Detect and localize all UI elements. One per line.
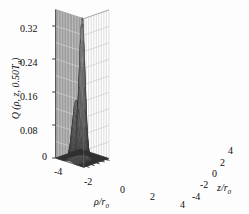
z-axis-r-sub: 0 [228,188,232,196]
z-axis-tick-label: 4 [228,146,233,156]
vertical-axis-title: Q (ρ, z, 0.50T0) [11,39,24,139]
vertical-axis-title-comma2: , [10,88,21,93]
vertical-axis-title-open: ( [10,106,21,112]
z-axis-tick-label: 2 [220,158,225,168]
vertical-axis-title-value: 0.50 [10,70,21,88]
figure-3d-surface-plot: Q (ρ, z, 0.50T0) ρ/r0 z/r0 0.320.240.160… [0,0,249,214]
vertical-axis-tick-label: 0.16 [20,92,38,102]
z-axis-tick-label: 0 [212,169,217,179]
rho-axis-tick-label: -4 [54,167,62,177]
z-axis-tick [86,166,89,167]
vertical-axis-tick-label: 0.24 [20,58,38,68]
rho-axis-r-sub: 0 [106,202,110,210]
rho-axis-tick-label: 4 [180,200,185,210]
vertical-axis-title-comma1: , [10,96,21,101]
rho-axis-tick-label: 0 [120,185,125,195]
z-axis-tick [96,163,99,164]
vertical-axis-tick-label: 0.32 [20,24,38,34]
vertical-axis-title-rho: ρ [10,101,21,106]
vertical-axis-title-close: ) [10,58,21,61]
z-axis-tick-label: -2 [200,180,208,190]
scene-group [52,10,109,168]
vertical-axis-title-temp: T [10,65,21,71]
z-axis-tick [101,161,104,162]
vertical-axis-tick-label: 0.08 [20,126,38,136]
rho-axis-tick-label: -2 [84,177,92,187]
rho-axis-title: ρ/r0 [94,197,109,210]
z-axis-tick [91,165,94,166]
z-axis-title: z/r0 [217,183,231,196]
rho-axis-tick-label: 2 [150,192,155,202]
vertical-axis-title-z: z [10,93,21,97]
vertical-axis-tick-label: 0 [42,152,47,162]
z-axis-tick-label: -4 [192,192,200,202]
vertical-axis-title-quantity: Q [10,112,21,119]
